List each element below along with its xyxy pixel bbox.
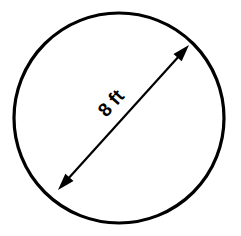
circle-shape: [14, 13, 224, 223]
circle-diameter-svg: 8 ft: [0, 0, 241, 236]
geometry-figure: 8 ft: [0, 0, 241, 236]
